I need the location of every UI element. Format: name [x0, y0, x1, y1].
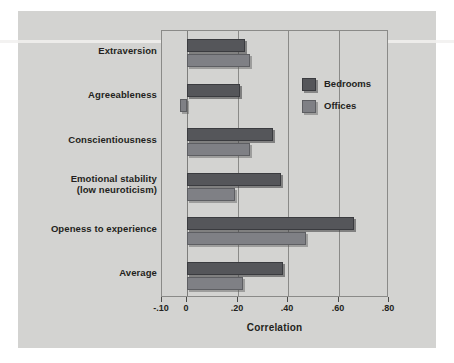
category-label-line: Extraversion: [7, 45, 157, 56]
figure: ExtraversionAgreeablenessConscientiousne…: [0, 0, 454, 363]
zero-line: [187, 31, 188, 296]
bar-bedrooms-2: [187, 128, 273, 141]
plot-area: [161, 30, 388, 297]
bar-offices-3: [187, 188, 235, 201]
legend-swatch-bedrooms: [302, 78, 316, 91]
x-tick-5: [388, 297, 389, 302]
bar-bedrooms-1: [187, 84, 240, 97]
gridline: [238, 31, 239, 296]
legend-swatch-offices: [302, 100, 316, 113]
category-label-1: Agreeableness: [7, 89, 157, 100]
x-axis-title: Correlation: [161, 322, 388, 333]
x-tick-label-5: .80: [368, 303, 408, 313]
category-label-line: Agreeableness: [7, 89, 157, 100]
bar-bedrooms-0: [187, 39, 245, 52]
bar-offices-4: [187, 232, 306, 245]
bar-bedrooms-3: [187, 173, 280, 186]
legend-label-offices: Offices: [324, 100, 356, 111]
bar-bedrooms-5: [187, 262, 283, 275]
x-tick-label-2: .20: [217, 303, 257, 313]
gridline: [339, 31, 340, 296]
category-label-5: Average: [7, 267, 157, 278]
category-label-2: Conscientiousness: [7, 134, 157, 145]
bar-offices-2: [187, 143, 250, 156]
category-label-4: Openess to experience: [7, 223, 157, 234]
x-tick-label-4: .60: [318, 303, 358, 313]
x-tick-4: [338, 297, 339, 302]
category-label-line: (low neuroticism): [7, 184, 157, 195]
x-tick-3: [287, 297, 288, 302]
bar-bedrooms-4: [187, 217, 353, 230]
top-caption: [0, 0, 454, 9]
x-tick-label-1: 0: [166, 303, 206, 313]
x-tick-2: [237, 297, 238, 302]
bar-offices-5: [187, 277, 242, 290]
category-label-line: Average: [7, 267, 157, 278]
category-label-0: Extraversion: [7, 45, 157, 56]
bar-offices-1: [180, 99, 188, 112]
category-label-line: Openess to experience: [7, 223, 157, 234]
bar-offices-0: [187, 54, 250, 67]
gridline: [288, 31, 289, 296]
category-label-line: Conscientiousness: [7, 134, 157, 145]
x-tick-0: [161, 297, 162, 302]
category-axis-labels: ExtraversionAgreeablenessConscientiousne…: [5, 30, 157, 297]
legend-label-bedrooms: Bedrooms: [324, 78, 371, 89]
x-tick-1: [186, 297, 187, 302]
x-tick-label-3: .40: [267, 303, 307, 313]
category-label-3: Emotional stability(low neuroticism): [7, 173, 157, 195]
category-label-line: Emotional stability: [7, 173, 157, 184]
